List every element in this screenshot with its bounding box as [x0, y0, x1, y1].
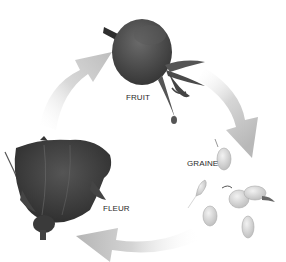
- flower-image: [5, 136, 111, 240]
- arrow-fruit-to-graine: [198, 68, 258, 158]
- arrow-fleur-to-fruit: [40, 52, 112, 130]
- seeds-image: [188, 139, 275, 238]
- stage-label-graine: GRAINE: [187, 159, 218, 168]
- arrow-graine-to-fleur: [76, 228, 200, 262]
- stage-label-fleur: FLEUR: [103, 204, 130, 213]
- stage-label-fruit: FRUIT: [126, 93, 150, 102]
- fruit-image: [103, 19, 205, 124]
- life-cycle-diagram: [0, 0, 286, 262]
